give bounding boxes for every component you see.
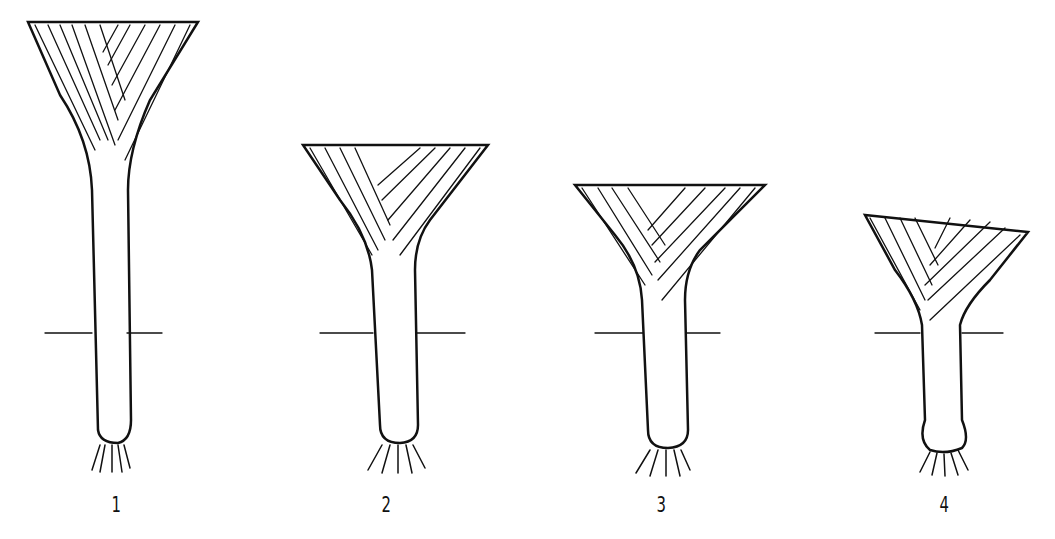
leek-4 — [865, 215, 1028, 476]
leek-1 — [28, 22, 198, 472]
label-2: 2 — [382, 492, 391, 517]
label-4: 4 — [940, 492, 949, 517]
label-3: 3 — [657, 492, 666, 517]
leek-illustrations — [0, 0, 1055, 539]
label-1: 1 — [112, 492, 121, 517]
leek-3 — [575, 185, 765, 476]
leek-2 — [303, 145, 488, 473]
